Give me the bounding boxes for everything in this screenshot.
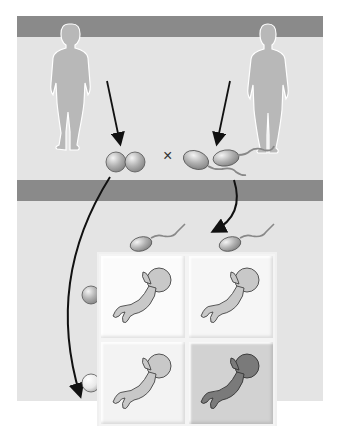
sperm-icon xyxy=(218,224,274,254)
egg-icon xyxy=(125,152,145,172)
male-silhouette-icon xyxy=(248,24,289,153)
fetus-icon xyxy=(189,256,273,338)
sperm-icon xyxy=(212,146,274,168)
egg-icon xyxy=(106,152,126,172)
female-silhouette-icon xyxy=(51,24,91,150)
fetus-icon xyxy=(101,256,185,338)
punnett-cell-highlighted xyxy=(187,340,275,426)
female-to-egg-arrow xyxy=(107,81,120,143)
punnett-square xyxy=(97,252,277,426)
fetus-icon xyxy=(189,342,273,424)
punnett-cell xyxy=(99,340,187,426)
cross-symbol: × xyxy=(163,147,172,165)
fetus-icon xyxy=(101,342,185,424)
punnett-cell xyxy=(187,254,275,340)
sperm-distribution-arrow xyxy=(214,180,237,231)
punnett-cell xyxy=(99,254,187,340)
male-to-sperm-arrow xyxy=(217,81,230,143)
sperm-icon xyxy=(129,224,185,254)
